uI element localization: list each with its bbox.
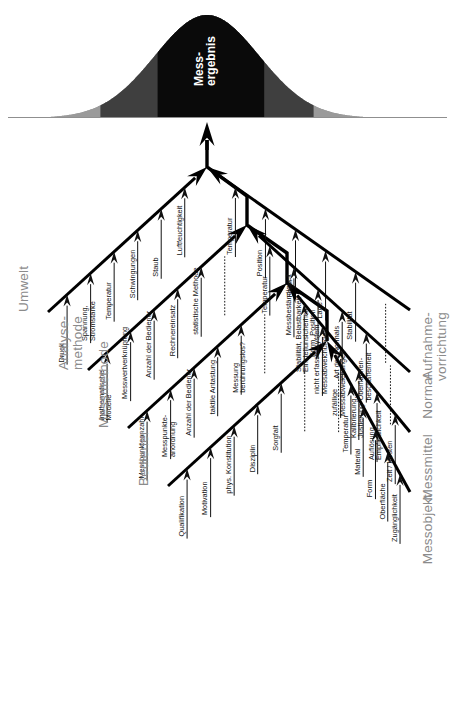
category-label-normal-0: Normal — [420, 374, 435, 419]
ishikawa-diagram: Mess- ergebnis DruckSpannung,Stromstärke… — [0, 0, 455, 728]
cause-label-messmittel-3-1: Messabweichungen — [338, 351, 347, 416]
cause-label-umwelt-3-0: Schwingungen — [128, 250, 137, 299]
category-label-analysemethode-0: Analyse- — [56, 316, 71, 370]
cause-label-messmethode-2-0: Anzahl der Bediener — [184, 368, 193, 436]
cause-label-messmittel-0-0: Zeit / Kosten — [385, 441, 394, 483]
category-label-messmittel-0: Messmittel — [420, 434, 435, 501]
cause-label-messobjekt-3-0: Material — [353, 448, 362, 475]
cause-label-messmittel-1-1: Empfindlichkeit — [374, 410, 383, 460]
category-label-bediener-0: Bediener — [136, 430, 151, 486]
cause-label-bediener-0-0: Qualifikation — [177, 496, 186, 537]
category-label-messobjekt-0: Messobjekt — [420, 494, 435, 564]
cause-label-normal-4-0: Messbeständigkeit — [284, 274, 293, 335]
cause-label-normal-1-1: beschaffenheit — [364, 353, 373, 401]
cause-label-messmittel-2-1: Justierung — [356, 404, 365, 438]
cause-label-bediener-1-0: Motivation — [200, 481, 209, 515]
cause-label-umwelt-2-0: Temperatur — [104, 282, 113, 320]
cause-label-analysemethode-3-0: Rechnereinsatz — [168, 305, 177, 357]
category-label-analysemethode-1: methode — [70, 316, 85, 370]
measurement-result-bell-curve: Mess- ergebnis — [0, 0, 455, 118]
category-label-umwelt-0: Umwelt — [16, 266, 31, 312]
category-label-aufnahmevorrichtung-0: Aufnahme- — [420, 312, 435, 380]
cause-label-umwelt-1-1: Stromstärke — [88, 301, 97, 341]
cause-label-messmethode-1-1: anordnung — [168, 422, 177, 457]
branch-spine-aufnahmevorrichtung — [220, 176, 410, 310]
cause-label-bediener-3-0: Disziplin — [248, 445, 257, 473]
cause-label-aufnahmevorrichtung-4-0: Position — [255, 250, 264, 276]
cause-label-aufnahmevorrichtung-5-0: Temperatur — [225, 217, 234, 255]
cause-label-messmittel-4-1: Messabweichungen — [320, 329, 329, 394]
cause-label-umwelt-4-0: Staub — [151, 257, 160, 276]
cause-label-bediener-2-0: phys. Konstitution — [224, 435, 233, 493]
category-label-aufnahmevorrichtung-1: vorrichtung — [434, 312, 449, 381]
cause-label-analysemethode-4-0: statistische Methode — [191, 267, 200, 334]
head-label-line2: ergebnis — [204, 36, 218, 86]
cause-label-analysemethode-1-0: Messwertverknüpfung — [120, 327, 129, 399]
cause-label-aufnahmevorrichtung-1-0: Stabilität — [345, 311, 354, 339]
cause-label-messobjekt-0-0: Zugänglichkeit — [390, 494, 399, 542]
cause-label-messmethode-3-0: taktile Antastung — [208, 360, 217, 414]
cause-label-messmethode-4-1: berührungslos? — [238, 342, 247, 393]
cause-label-normal-5-0: Temperatur — [260, 276, 269, 314]
cause-label-umwelt-5-0: Luftfeuchtigkeit — [175, 206, 184, 256]
fishbone-diagram-canvas: Mess- ergebnis DruckSpannung,Stromstärke… — [0, 0, 455, 728]
category-label-messmethode-0: Messmethode — [96, 341, 111, 428]
cause-label-messmittel-5-1: Einstellunsicherheit — [301, 308, 310, 372]
cause-label-messobjekt-1-0: Oberfläche — [378, 483, 387, 519]
fishbone-labels: DruckSpannung,StromstärkeTemperaturSchwi… — [16, 206, 449, 565]
cause-label-analysemethode-2-0: Anzahl der Bediener — [144, 310, 153, 378]
cause-label-messobjekt-2-0: Form — [365, 480, 374, 497]
cause-label-bediener-4-0: Sorgfalt — [271, 425, 280, 450]
cause-label-messobjekt-4-0: Temperatur — [341, 415, 350, 453]
